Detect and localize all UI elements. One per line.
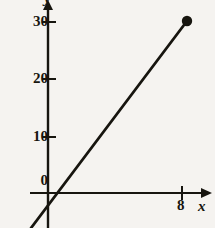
y-tick-label-30: 30 xyxy=(33,14,48,29)
graph-figure: 30 20 10 0 8 x y xyxy=(0,0,215,228)
y-axis-label: y xyxy=(44,0,51,6)
y-tick-label-20: 20 xyxy=(33,71,48,86)
data-line xyxy=(31,21,187,228)
plot-canvas xyxy=(0,0,215,228)
y-tick-label-10: 10 xyxy=(33,129,48,144)
x-axis-arrowhead xyxy=(201,188,212,198)
x-tick-label-8: 8 xyxy=(177,198,185,213)
endpoint-dot xyxy=(182,16,192,26)
y-tick-label-0: 0 xyxy=(41,173,49,188)
x-axis-label: x xyxy=(198,199,206,214)
